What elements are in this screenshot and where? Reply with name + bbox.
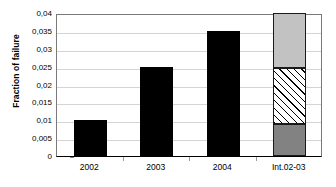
x-tick-label: 2003	[123, 162, 190, 172]
stacked-bar-middle-segment	[273, 68, 306, 123]
bar	[207, 31, 240, 156]
stacked-bar-lower-segment	[273, 124, 306, 156]
y-tick-label: 0	[18, 153, 52, 161]
y-tick-label: 0,03	[18, 46, 52, 54]
y-tick-label: 0,035	[18, 28, 52, 36]
bar	[140, 67, 173, 156]
stacked-bar-upper-segment	[273, 13, 306, 68]
y-axis-tick-labels: 00,0050,010,0150,020,0250,030,0350,04	[18, 14, 52, 157]
x-tick-label: 2002	[56, 162, 123, 172]
y-tick-label: 0,005	[18, 135, 52, 143]
y-tick-label: 0,025	[18, 64, 52, 72]
stacked-bar	[273, 13, 306, 156]
bar	[74, 120, 107, 156]
chart-container: Fraction of failure 00,0050,010,0150,020…	[0, 0, 336, 187]
y-tick-label: 0,015	[18, 99, 52, 107]
x-axis-tick-labels: 200220032004Int.02-03	[56, 162, 322, 178]
x-tick-mark	[189, 157, 190, 161]
x-tick-label: 2004	[189, 162, 256, 172]
y-tick-label: 0,04	[18, 10, 52, 18]
x-tick-mark	[123, 157, 124, 161]
y-tick-mark	[70, 157, 74, 158]
y-tick-label: 0,01	[18, 117, 52, 125]
plot-area	[56, 14, 322, 157]
y-tick-label: 0,02	[18, 82, 52, 90]
x-tick-mark	[256, 157, 257, 161]
x-tick-label: Int.02-03	[256, 162, 323, 172]
